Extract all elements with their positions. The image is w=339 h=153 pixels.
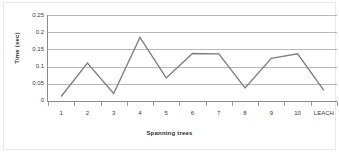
x-axis-title: Spanning trees bbox=[0, 130, 339, 136]
chart-screenshot: Time (sec) 0.25 0.2 0.15 0.1 0.05 0 1234… bbox=[0, 0, 339, 153]
